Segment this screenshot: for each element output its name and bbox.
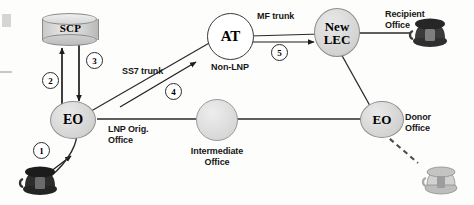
node-intermediate-office[interactable] (196, 99, 238, 141)
telephone-icon (17, 162, 63, 196)
label-donor-office: Donor Office (405, 112, 431, 133)
node-new-lec-label-line2: LEC (324, 33, 351, 46)
label-intermediate-office: Intermediate Office (176, 146, 258, 167)
node-scp[interactable]: SCP (42, 13, 99, 45)
step-badge-5: 5 (271, 44, 288, 61)
node-at[interactable]: AT (207, 13, 254, 60)
donor-phone[interactable] (420, 163, 462, 196)
step-badge-2: 2 (42, 72, 59, 89)
telephone-icon (408, 15, 452, 48)
node-eo-origin[interactable]: EO (50, 101, 96, 139)
step-badge-3: 3 (86, 52, 103, 69)
telephone-icon-disabled (420, 163, 462, 196)
node-new-lec[interactable]: New LEC (314, 8, 360, 57)
lnp-call-flow-diagram: SCP EO AT New LEC EO 1 2 3 4 5 SS7 trunk… (0, 0, 474, 205)
calling-phone[interactable] (17, 162, 63, 196)
step-badge-3-number: 3 (92, 56, 97, 66)
edge-eo-to-at-trunk (86, 42, 211, 114)
label-mf-trunk: MF trunk (257, 11, 294, 22)
step-badge-4: 4 (165, 83, 182, 100)
step-badge-1-number: 1 (39, 146, 44, 156)
label-non-lnp: Non-LNP (197, 62, 263, 73)
node-new-lec-label-line1: New (325, 20, 350, 33)
step-badge-4-number: 4 (171, 87, 176, 97)
step-badge-1: 1 (33, 142, 50, 159)
label-ss7-trunk: SS7 trunk (122, 66, 163, 77)
scp-cylinder-bottom (42, 34, 97, 46)
edge-eo-to-donor-phone-dashed (383, 133, 418, 163)
scp-label: SCP (42, 22, 99, 34)
node-eo-donor[interactable]: EO (360, 101, 404, 138)
node-eo-donor-label: EO (373, 113, 392, 126)
step-badge-2-number: 2 (48, 76, 53, 86)
edge-at-to-newlec-trunk (250, 34, 321, 36)
label-lnp-orig-office: LNP Orig. Office (108, 124, 148, 145)
recipient-phone[interactable] (408, 15, 452, 48)
step-badge-5-number: 5 (277, 48, 282, 58)
node-eo-origin-label: EO (63, 113, 83, 127)
node-at-label: AT (221, 29, 241, 44)
